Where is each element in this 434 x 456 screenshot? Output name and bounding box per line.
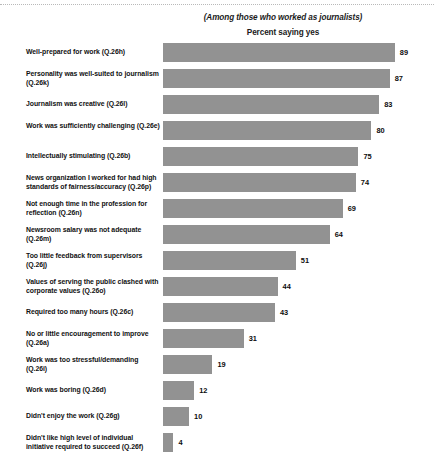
- bar-value-label: 12: [199, 386, 207, 395]
- bar: [163, 147, 358, 166]
- bar-category-label: Well-prepared for work (Q.26h): [26, 47, 160, 56]
- bar-track: 10: [163, 407, 434, 426]
- table-row: Required too many hours (Q.26c)43: [0, 299, 434, 325]
- bar-value-label: 43: [280, 308, 288, 317]
- table-row: Work was sufficiently challenging (Q.26e…: [0, 117, 434, 143]
- bar-track: 89: [163, 43, 434, 62]
- bar-category-label: Required too many hours (Q.26c): [26, 307, 160, 316]
- bar-value-label: 31: [249, 334, 257, 343]
- top-divider: [0, 4, 434, 5]
- bar: [163, 433, 173, 452]
- bar-category-label: Values of serving the public clashed wit…: [26, 277, 160, 295]
- bar: [163, 43, 395, 62]
- bar-chart: Well-prepared for work (Q.26h)89Personal…: [0, 39, 434, 455]
- chart-subtitle: (Among those who worked as journalists): [163, 13, 403, 22]
- table-row: Not enough time in the profession for re…: [0, 195, 434, 221]
- bar-track: 43: [163, 303, 434, 322]
- table-row: Personality was well-suited to journalis…: [0, 65, 434, 91]
- bar-category-label: Personality was well-suited to journalis…: [26, 69, 160, 87]
- bar-value-label: 64: [335, 230, 343, 239]
- bar: [163, 329, 244, 348]
- bar-value-label: 87: [395, 74, 403, 83]
- bar-value-label: 44: [283, 282, 291, 291]
- bar-value-label: 19: [217, 360, 225, 369]
- bar-track: 69: [163, 199, 434, 218]
- bar: [163, 407, 189, 426]
- table-row: No or little encouragement to improve (Q…: [0, 325, 434, 351]
- bar: [163, 225, 330, 244]
- table-row: Too little feedback from supervisors (Q.…: [0, 247, 434, 273]
- table-row: Didn't like high level of individual ini…: [0, 429, 434, 455]
- axis-title: Percent saying yes: [163, 28, 403, 37]
- table-row: Intellectually stimulating (Q.26b)75: [0, 143, 434, 169]
- bar: [163, 381, 194, 400]
- bar-category-label: No or little encouragement to improve (Q…: [26, 329, 160, 347]
- bar-track: 31: [163, 329, 434, 348]
- table-row: Work was too stressful/demanding (Q.26i)…: [0, 351, 434, 377]
- bar-value-label: 74: [361, 178, 369, 187]
- bar-track: 80: [163, 121, 434, 140]
- table-row: Values of serving the public clashed wit…: [0, 273, 434, 299]
- bar-value-label: 83: [384, 100, 392, 109]
- table-row: Work was boring (Q.26d)12: [0, 377, 434, 403]
- bar: [163, 69, 390, 88]
- bar-category-label: News organization I worked for had high …: [26, 173, 160, 191]
- bar-value-label: 80: [376, 126, 384, 135]
- bar-category-label: Work was sufficiently challenging (Q.26e…: [26, 121, 160, 130]
- table-row: News organization I worked for had high …: [0, 169, 434, 195]
- bar-category-label: Journalism was creative (Q.26l): [26, 99, 160, 108]
- bar-value-label: 75: [363, 152, 371, 161]
- table-row: Journalism was creative (Q.26l)83: [0, 91, 434, 117]
- bar-track: 44: [163, 277, 434, 296]
- bar-track: 4: [163, 433, 434, 452]
- bar-category-label: Intellectually stimulating (Q.26b): [26, 151, 160, 160]
- bar-category-label: Didn't enjoy the work (Q.26g): [26, 411, 160, 420]
- bar-category-label: Didn't like high level of individual ini…: [26, 433, 160, 451]
- bar-track: 74: [163, 173, 434, 192]
- bar: [163, 303, 275, 322]
- bar: [163, 277, 278, 296]
- bar-track: 87: [163, 69, 434, 88]
- bar-value-label: 51: [301, 256, 309, 265]
- bar-category-label: Newsroom salary was not adequate (Q.26m): [26, 225, 160, 243]
- bar: [163, 173, 356, 192]
- bar: [163, 199, 343, 218]
- table-row: Newsroom salary was not adequate (Q.26m)…: [0, 221, 434, 247]
- bar: [163, 121, 371, 140]
- bar-track: 64: [163, 225, 434, 244]
- bar-track: 12: [163, 381, 434, 400]
- bar-category-label: Work was boring (Q.26d): [26, 385, 160, 394]
- bar-value-label: 10: [194, 412, 202, 421]
- table-row: Well-prepared for work (Q.26h)89: [0, 39, 434, 65]
- bar-category-label: Too little feedback from supervisors (Q.…: [26, 251, 160, 269]
- bar-value-label: 89: [400, 48, 408, 57]
- bar: [163, 355, 212, 374]
- bar-category-label: Work was too stressful/demanding (Q.26i): [26, 355, 160, 373]
- bar: [163, 251, 296, 270]
- bar-track: 51: [163, 251, 434, 270]
- bar-value-label: 69: [348, 204, 356, 213]
- bar: [163, 95, 379, 114]
- bar-track: 19: [163, 355, 434, 374]
- bar-track: 83: [163, 95, 434, 114]
- bar-track: 75: [163, 147, 434, 166]
- chart-page: (Among those who worked as journalists) …: [0, 0, 434, 456]
- table-row: Didn't enjoy the work (Q.26g)10: [0, 403, 434, 429]
- chart-header: (Among those who worked as journalists) …: [163, 13, 403, 37]
- bar-category-label: Not enough time in the profession for re…: [26, 199, 160, 217]
- bar-value-label: 4: [178, 438, 182, 447]
